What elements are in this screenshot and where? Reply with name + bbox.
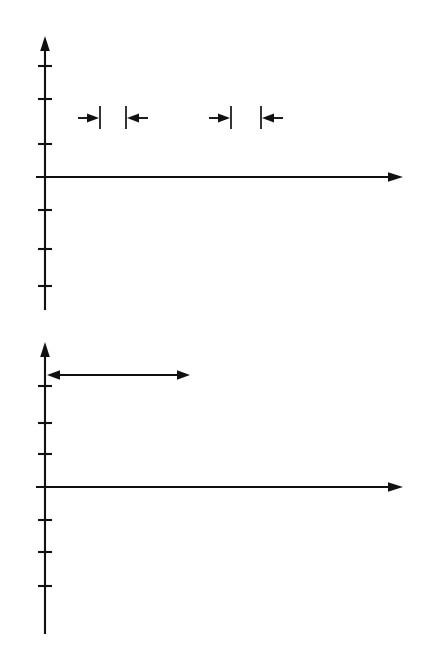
annotation-period-1-1over6-T [0,0,283,129]
bottom-axes [36,342,403,634]
bottom-panel-svg [0,324,433,647]
annotation-period-T [0,0,148,129]
panel-top-two-waves [0,0,433,324]
period-1-1over6-T-left-arrowhead [218,113,230,122]
period-T-right-arrowhead [127,113,139,122]
beat-period-right-arrowhead [177,370,190,380]
beat-period-left-arrowhead [47,370,60,380]
panel-bottom-superposition [0,324,433,647]
annotation-beat-period [0,324,190,380]
period-T-left-arrowhead [87,113,99,122]
top-panel-svg [0,0,433,324]
top-axes [36,36,403,310]
period-1-1over6-T-right-arrowhead [262,113,274,122]
beats-figure [0,0,433,647]
t-axis-arrowhead-bottom [388,482,403,492]
y-axis-arrowhead-top [40,36,50,51]
t-axis-arrowhead-top [388,172,403,182]
y-axis-arrowhead-bottom [40,342,50,357]
